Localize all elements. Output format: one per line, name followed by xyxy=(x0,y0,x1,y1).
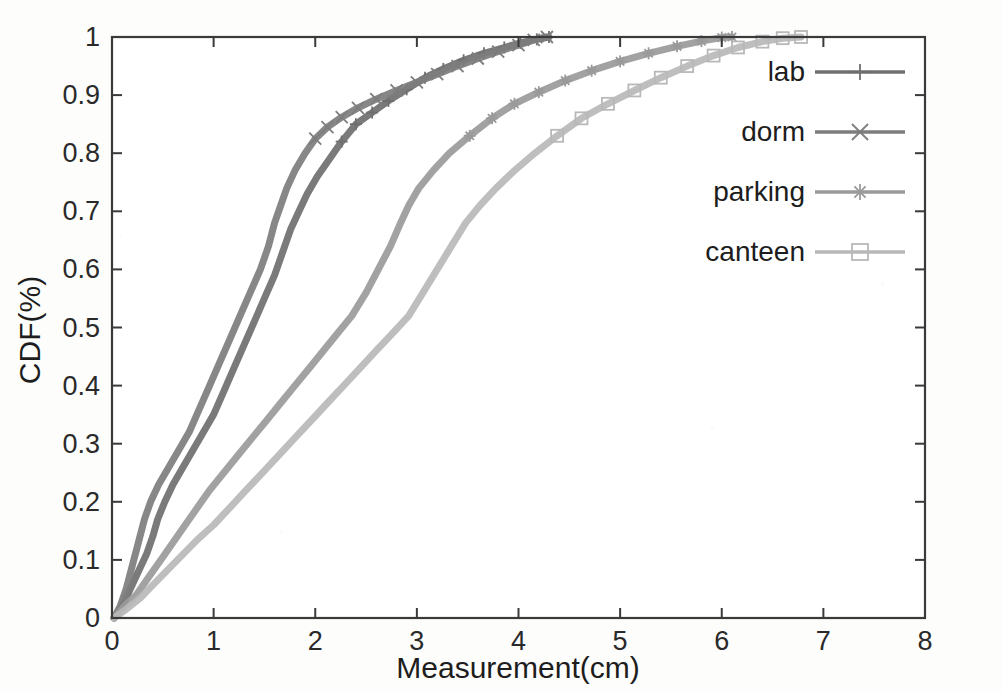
y-tick-label: 0.4 xyxy=(62,371,100,401)
series-marker-star xyxy=(614,55,626,67)
y-tick-label: 0.3 xyxy=(62,429,100,459)
y-tick-label: 0.1 xyxy=(62,545,100,575)
series-marker-star xyxy=(586,65,598,77)
x-tick-label: 6 xyxy=(714,626,729,656)
x-tick-label: 8 xyxy=(917,626,932,656)
x-axis-title: Measurement(cm) xyxy=(396,651,639,684)
series-marker-star xyxy=(559,75,571,87)
x-tick-label: 2 xyxy=(308,626,323,656)
series-marker-star xyxy=(533,86,545,98)
y-tick-label: 0.2 xyxy=(62,487,100,517)
y-tick-label: 0.6 xyxy=(62,254,100,284)
legend-label-lab: lab xyxy=(768,56,805,87)
y-tick-label: 1 xyxy=(85,22,100,52)
series-marker-star xyxy=(852,184,868,200)
y-tick-label: 0.8 xyxy=(62,138,100,168)
series-marker-star xyxy=(508,98,520,110)
y-tick-label: 0.7 xyxy=(62,196,100,226)
x-tick-label: 7 xyxy=(816,626,831,656)
y-tick-label: 0.9 xyxy=(62,80,100,110)
cdf-chart-figure: 01234567800.10.20.30.40.50.60.70.80.91 l… xyxy=(0,0,1003,691)
y-axis-title: CDF(%) xyxy=(13,276,46,384)
x-tick-label: 0 xyxy=(104,626,119,656)
x-tick-label: 1 xyxy=(206,626,221,656)
legend-label-dorm: dorm xyxy=(741,116,805,147)
chart-svg: 01234567800.10.20.30.40.50.60.70.80.91 l… xyxy=(0,0,1003,691)
y-tick-label: 0.5 xyxy=(62,313,100,343)
y-tick-label: 0 xyxy=(85,603,100,633)
legend-label-canteen: canteen xyxy=(705,236,805,267)
series-marker-star xyxy=(464,130,476,142)
legend-label-parking: parking xyxy=(713,176,805,207)
